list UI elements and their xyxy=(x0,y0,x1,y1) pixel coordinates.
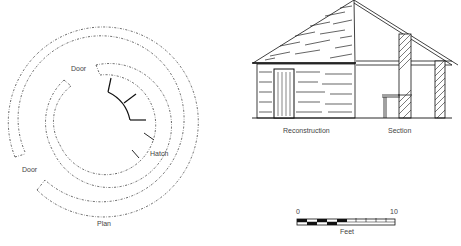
plan-inner-room xyxy=(108,78,146,120)
scale-max-label: 10 xyxy=(390,208,398,215)
plan-drawing xyxy=(8,27,198,217)
scale-min-label: 0 xyxy=(296,208,300,215)
scale-unit-label: Feet xyxy=(340,228,354,235)
scale-bar xyxy=(297,218,395,225)
door-top-label: Door xyxy=(71,65,86,72)
reconstruction-caption: Reconstruction xyxy=(283,127,330,134)
section-caption: Section xyxy=(388,127,411,134)
hatch-label: Hatch xyxy=(150,150,168,157)
reconstruction-elevation xyxy=(252,0,356,118)
diagram-canvas: Door Door Hatch Plan Reconstruction Sect… xyxy=(0,0,461,246)
section-drawing xyxy=(354,0,458,118)
plan-caption: Plan xyxy=(97,220,111,227)
door-left-label: Door xyxy=(22,166,37,173)
